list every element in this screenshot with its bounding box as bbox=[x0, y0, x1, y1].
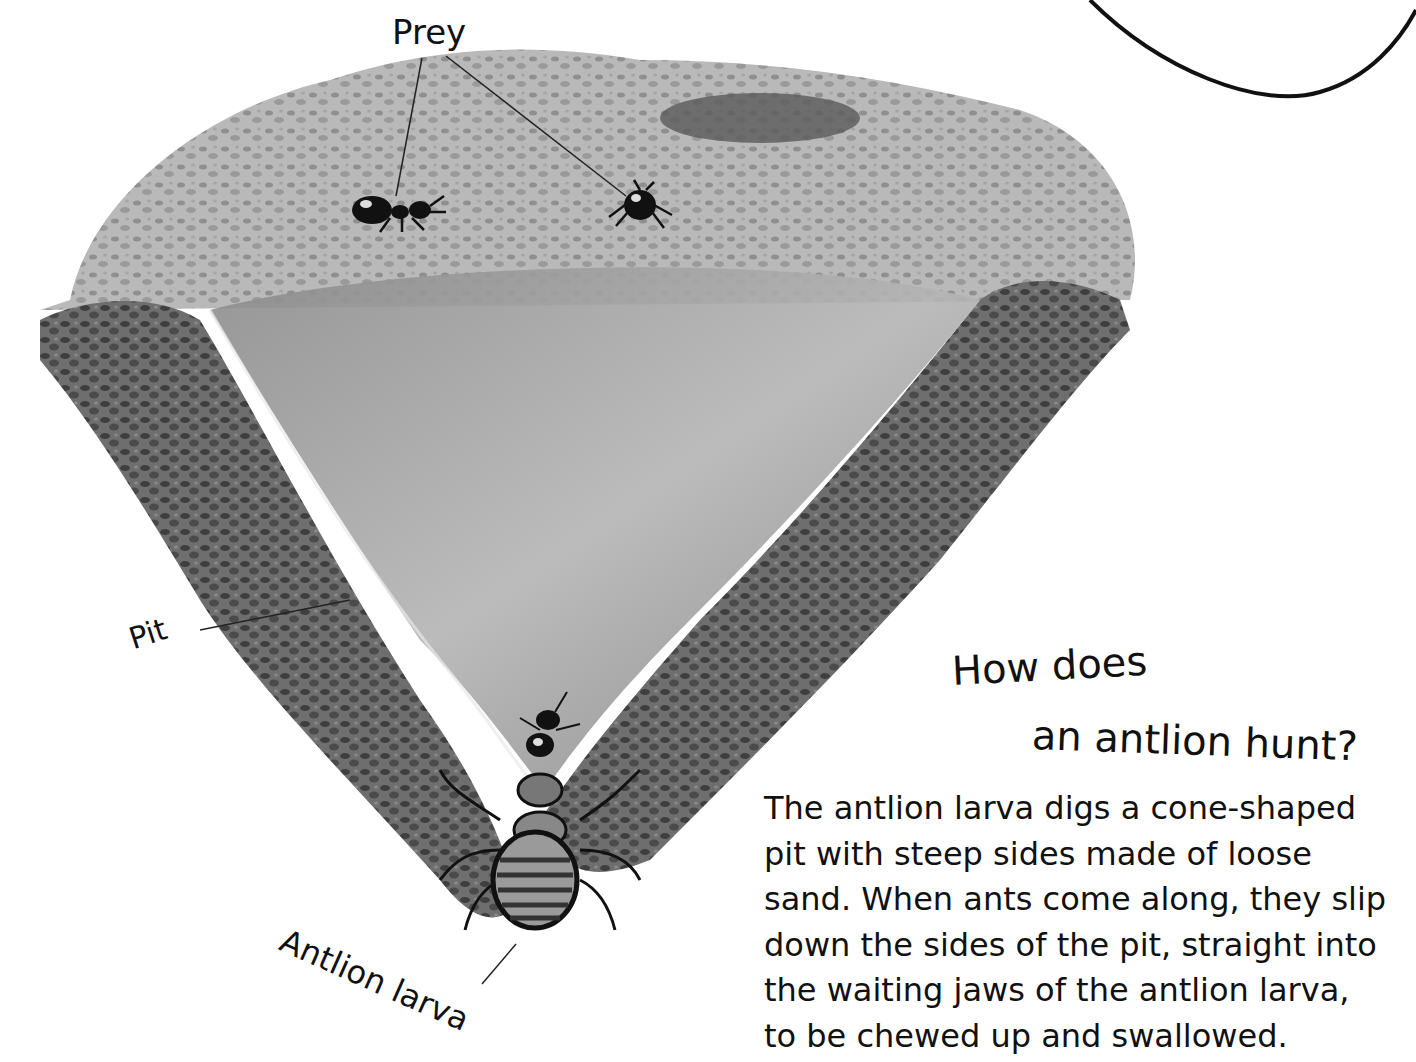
body-line: pit with steep sides made of loose bbox=[764, 832, 1414, 878]
hollow bbox=[660, 93, 860, 143]
body-paragraph: The antlion larva digs a cone-shaped pit… bbox=[764, 786, 1414, 1059]
body-line: down the sides of the pit, straight into bbox=[764, 923, 1414, 969]
speech-bubble-outline bbox=[1090, 0, 1416, 96]
label-prey: Prey bbox=[392, 12, 466, 52]
body-line: sand. When ants come along, they slip bbox=[764, 877, 1414, 923]
body-line: The antlion larva digs a cone-shaped bbox=[764, 786, 1414, 832]
body-line: the waiting jaws of the antlion larva, bbox=[764, 968, 1414, 1014]
body-line: to be chewed up and swallowed. bbox=[764, 1014, 1414, 1060]
